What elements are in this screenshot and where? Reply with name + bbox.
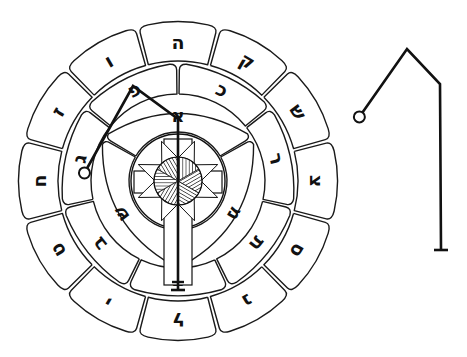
sigil-start-circle <box>79 167 90 178</box>
outer-ring-letter: ח <box>28 174 50 187</box>
outer-ring-letter: צ <box>306 175 328 187</box>
sigil-standalone <box>354 49 448 250</box>
sigil-path <box>360 49 441 250</box>
rose-wheel: הקשצסנליטחזו כרתדבגפ אמש <box>0 0 467 357</box>
sigil-diagram: הקשצסנליטחזו כרתדבגפ אמש Rose cross sigi… <box>0 0 467 357</box>
outer-ring-letter: ל <box>172 309 184 331</box>
sigil-start-circle <box>354 111 365 122</box>
outer-ring-letter: ה <box>171 31 184 53</box>
